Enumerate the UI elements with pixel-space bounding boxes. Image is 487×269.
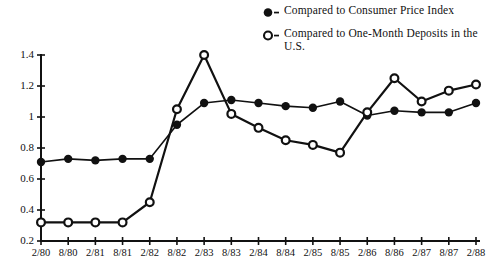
data-point-open xyxy=(91,219,99,227)
y-tick-label: 1.4 xyxy=(8,49,34,60)
x-tick-label: 8/80 xyxy=(53,247,83,258)
legend-item-cpi: Compared to Consumer Price Index xyxy=(262,4,484,18)
data-point-filled xyxy=(336,97,344,105)
filled-circle-icon xyxy=(262,4,284,18)
data-point-open xyxy=(472,81,480,89)
chart-svg xyxy=(0,40,487,269)
legend-label-cpi: Compared to Consumer Price Index xyxy=(284,4,454,17)
series-deposits xyxy=(37,51,480,226)
data-point-filled xyxy=(37,158,45,166)
data-point-open xyxy=(363,108,371,116)
x-tick-label: 2/85 xyxy=(298,247,328,258)
data-point-filled xyxy=(227,96,235,104)
x-tick-label: 8/83 xyxy=(216,247,246,258)
data-point-open xyxy=(146,198,154,206)
data-point-filled xyxy=(200,99,208,107)
x-tick-label: 2/87 xyxy=(407,247,437,258)
data-point-open xyxy=(336,149,344,157)
data-point-filled xyxy=(445,108,453,116)
chart-figure: Compared to Consumer Price Index Compare… xyxy=(0,0,487,269)
x-tick-label: 2/81 xyxy=(80,247,110,258)
data-point-filled xyxy=(390,107,398,115)
series-line xyxy=(41,55,476,222)
data-point-filled xyxy=(417,108,425,116)
y-tick-label: 1 xyxy=(8,111,34,122)
x-tick-label: 2/84 xyxy=(244,247,274,258)
x-tick-label: 8/87 xyxy=(434,247,464,258)
data-point-open xyxy=(227,110,235,118)
open-circle-icon xyxy=(262,27,284,41)
data-point-open xyxy=(391,74,399,82)
data-point-open xyxy=(37,219,45,227)
data-point-filled xyxy=(146,155,154,163)
x-tick-label: 2/83 xyxy=(189,247,219,258)
data-point-open xyxy=(309,141,317,149)
data-point-open xyxy=(445,87,453,95)
y-tick-label: 0.6 xyxy=(8,173,34,184)
chart-plot-area: 0.20.40.60.811.21.4 2/808/802/818/812/82… xyxy=(0,40,487,269)
x-tick-label: 2/82 xyxy=(135,247,165,258)
x-tick-label: 2/88 xyxy=(461,247,487,258)
data-point-open xyxy=(64,219,72,227)
y-tick-label: 0.4 xyxy=(8,204,34,215)
x-tick-label: 2/86 xyxy=(352,247,382,258)
data-point-open xyxy=(282,136,290,144)
data-point-filled xyxy=(118,155,126,163)
data-point-filled xyxy=(281,102,289,110)
x-tick-label: 8/81 xyxy=(108,247,138,258)
y-tick-label: 1.2 xyxy=(8,80,34,91)
x-tick-label: 8/84 xyxy=(271,247,301,258)
data-point-open xyxy=(173,105,181,113)
x-tick-label: 8/86 xyxy=(379,247,409,258)
data-point-filled xyxy=(472,99,480,107)
x-tick-label: 8/82 xyxy=(162,247,192,258)
data-point-filled xyxy=(91,156,99,164)
data-point-filled xyxy=(64,155,72,163)
x-tick-label: 2/80 xyxy=(26,247,56,258)
data-point-filled xyxy=(309,104,317,112)
data-point-open xyxy=(200,51,208,59)
data-point-open xyxy=(418,98,426,106)
data-point-filled xyxy=(254,99,262,107)
data-point-open xyxy=(119,219,127,227)
y-tick-label: 0.2 xyxy=(8,235,34,246)
data-point-open xyxy=(255,124,263,132)
y-tick-label: 0.8 xyxy=(8,142,34,153)
x-tick-label: 8/85 xyxy=(325,247,355,258)
